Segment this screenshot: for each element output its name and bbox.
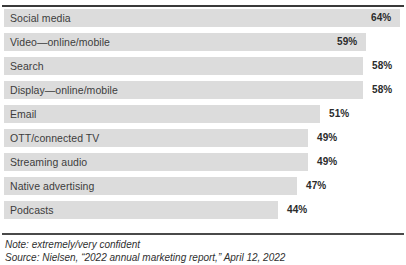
bar-row: Streaming audio49% [0, 153, 406, 171]
bar-category-label: Native advertising [10, 177, 94, 195]
bar-category-label: Podcasts [10, 201, 54, 219]
bar-row: Social media64% [0, 9, 406, 27]
bar-value-label: 44% [287, 201, 307, 219]
bar-value-label: 59% [337, 33, 357, 51]
bar-chart-figure: Social media64%Video—online/mobile59%Sea… [0, 0, 406, 265]
bar-category-label: Email [10, 105, 37, 123]
bar-value-label: 64% [371, 9, 391, 27]
bar-value-label: 58% [372, 81, 392, 99]
bar-row: Search58% [0, 57, 406, 75]
bar-row: Podcasts44% [0, 201, 406, 219]
top-divider-rule [2, 5, 404, 7]
bar-value-label: 51% [329, 105, 349, 123]
footer-source: Source: Nielsen, “2022 annual marketing … [5, 251, 403, 264]
bar-category-label: Search [10, 57, 44, 75]
bar-row: OTT/connected TV49% [0, 129, 406, 147]
bar-category-label: Video—online/mobile [10, 33, 110, 51]
bar-fill [4, 105, 320, 123]
bar-category-label: OTT/connected TV [10, 129, 99, 147]
bar-fill [4, 57, 363, 75]
bar-value-label: 47% [306, 177, 326, 195]
bar-row: Display—online/mobile58% [0, 81, 406, 99]
bar-category-label: Streaming audio [10, 153, 87, 171]
bar-value-label: 49% [317, 129, 337, 147]
bottom-divider-rule [2, 233, 404, 235]
chart-plot-area: Social media64%Video—online/mobile59%Sea… [0, 9, 406, 225]
bar-row: Video—online/mobile59% [0, 33, 406, 51]
bar-value-label: 49% [317, 153, 337, 171]
bar-category-label: Display—online/mobile [10, 81, 118, 99]
bar-row: Native advertising47% [0, 177, 406, 195]
bar-category-label: Social media [10, 9, 71, 27]
chart-footer: Note: extremely/very confident Source: N… [5, 238, 403, 264]
bar-value-label: 58% [372, 57, 392, 75]
footer-note: Note: extremely/very confident [5, 238, 403, 251]
bar-row: Email51% [0, 105, 406, 123]
